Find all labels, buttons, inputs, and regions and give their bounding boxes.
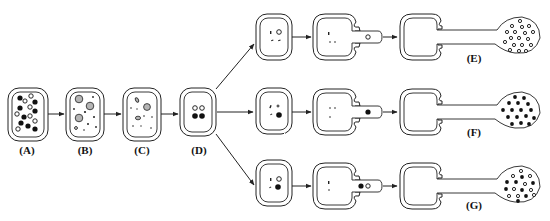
label-stage-c: (C) <box>134 144 149 156</box>
label-stage-a: (A) <box>19 144 34 156</box>
arrow-d-to-e-branch <box>216 44 254 89</box>
branch-f-cell-2-germinating <box>313 89 382 135</box>
cell-stage-a <box>8 88 48 141</box>
branch-g-cell-1 <box>256 160 292 206</box>
cell-stage-c <box>123 88 161 141</box>
label-stage-b: (B) <box>78 144 93 156</box>
branch-g-cell-2-germinating <box>313 163 382 209</box>
label-branch-g: (G) <box>466 199 482 211</box>
label-stage-d: (D) <box>191 144 206 156</box>
cell-stage-b <box>66 88 104 141</box>
diagram-canvas: (A) (B) (C) (D) (E) (F) (G) <box>0 0 550 221</box>
arrow-d-to-g-branch <box>216 134 254 185</box>
diagram-svg <box>0 0 550 221</box>
cell-stage-d <box>180 88 216 136</box>
branch-e-cell-2-germinating <box>313 14 382 60</box>
branch-e-cell-1 <box>256 14 292 60</box>
branch-f-cell-1 <box>256 88 292 134</box>
label-branch-f: (F) <box>467 126 481 138</box>
label-branch-e: (E) <box>467 52 482 64</box>
